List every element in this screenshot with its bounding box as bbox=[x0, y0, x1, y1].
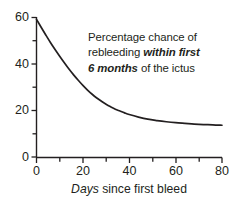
annotation-line-1: Percentage chance of bbox=[88, 30, 230, 45]
chart-annotation: Percentage chance of rebleeding within f… bbox=[88, 30, 230, 76]
y-tick-label-40: 40 bbox=[3, 58, 29, 71]
y-tick-label-60: 60 bbox=[3, 11, 29, 24]
x-axis-title-rest: since first bleed bbox=[99, 182, 187, 196]
annotation-line-1-plain: Percentage chance of bbox=[88, 31, 197, 43]
x-tick-label-20: 20 bbox=[68, 165, 98, 178]
x-tick-label-0: 0 bbox=[22, 165, 52, 178]
y-tick-label-20: 20 bbox=[3, 104, 29, 117]
annotation-line-3-emphasis: 6 months bbox=[88, 62, 138, 74]
x-tick-label-60: 60 bbox=[161, 165, 191, 178]
x-axis-title-italic: Days bbox=[71, 182, 99, 196]
x-axis-major-ticks bbox=[37, 158, 223, 164]
annotation-line-2-emphasis: within first bbox=[143, 46, 199, 58]
chart-figure: 60 40 20 0 0 20 40 60 80 Percentage chan… bbox=[0, 0, 234, 203]
x-tick-label-80: 80 bbox=[207, 165, 234, 178]
x-tick-label-40: 40 bbox=[115, 165, 145, 178]
annotation-line-2: rebleeding within first bbox=[88, 45, 230, 60]
annotation-line-2-plain: rebleeding bbox=[88, 46, 143, 58]
x-axis-title: Days since first bleed bbox=[36, 182, 222, 196]
y-tick-label-0: 0 bbox=[3, 151, 29, 164]
annotation-line-3-plain: of the ictus bbox=[138, 62, 195, 74]
annotation-line-3: 6 months of the ictus bbox=[88, 61, 230, 76]
